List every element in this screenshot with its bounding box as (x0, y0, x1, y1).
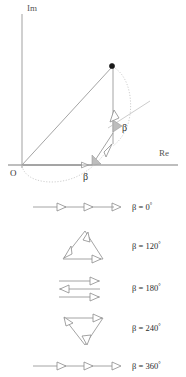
row360-label: β = 360° (132, 361, 161, 371)
row360-arrowhead-2 (84, 362, 93, 370)
resultant-vector (22, 67, 112, 165)
origin-label: O (10, 168, 17, 178)
row120-unit: ° (158, 241, 161, 247)
imaginary-axis-label: Im (27, 3, 37, 13)
row0-label: β = 0° (132, 202, 153, 212)
row360-unit: ° (158, 361, 161, 367)
row120-label: β = 120° (132, 241, 161, 251)
complex-plane-group: Im Re O β β (8, 3, 178, 182)
row180-value: 180 (145, 283, 158, 293)
row180-unit: ° (158, 283, 161, 289)
row180-arrowhead-middle (60, 285, 69, 293)
row240-value: 240 (145, 323, 158, 333)
row120-value: 120 (145, 241, 158, 251)
row180-label: β = 180° (132, 283, 161, 293)
phasor-row-0: β = 0° (33, 202, 153, 212)
phasor-row-240: β = 240° (64, 314, 161, 345)
upper-rotation-arc (113, 67, 131, 146)
row240-label: β = 240° (132, 323, 161, 333)
phasor-3-arrowhead (110, 110, 119, 122)
row120-arrowhead-left (64, 246, 72, 258)
phasor-row-120: β = 120° (63, 231, 161, 263)
phasor-2-arrowhead (104, 144, 112, 157)
phasor-row-360: β = 360° (33, 361, 161, 371)
lower-beta-label: β (83, 171, 88, 182)
row180-arrowhead-bottom (90, 293, 99, 301)
phasor-diagram-figure: Im Re O β β β (0, 0, 186, 377)
row360-value: 360 (145, 361, 158, 371)
row180-arrowhead-top (90, 277, 99, 285)
row0-arrowhead-1 (57, 203, 66, 211)
upper-beta-label: β (122, 122, 127, 133)
phasor-row-180: β = 180° (59, 277, 161, 301)
row0-arrowhead-2 (84, 203, 93, 211)
real-axis-label: Re (159, 148, 169, 158)
row120-arrowhead-bottom (92, 255, 101, 263)
row360-arrowhead-1 (57, 362, 66, 370)
row360-arrowhead-3 (112, 362, 121, 370)
row240-unit: ° (158, 323, 161, 329)
resultant-point (109, 63, 114, 68)
row0-unit: ° (150, 202, 153, 208)
